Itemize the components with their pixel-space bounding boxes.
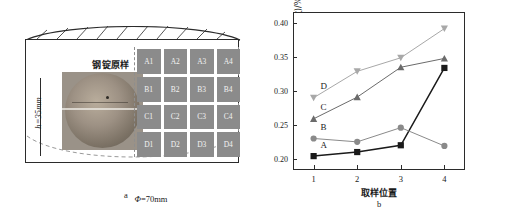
sample-block: B2: [164, 77, 188, 102]
series-label-D: D: [321, 81, 328, 91]
sample-block: D2: [164, 132, 188, 157]
sample-block: D4: [217, 132, 241, 157]
height-dimension-label: h=35mm: [33, 82, 43, 144]
sample-block: A2: [164, 49, 188, 74]
series-line-A: [314, 68, 445, 156]
sample-block: C3: [190, 105, 214, 130]
series-label-B: B: [321, 122, 327, 132]
x-axis-tick-label: 4: [434, 174, 454, 184]
sample-block: A1: [137, 49, 161, 74]
y-axis-tick-label: 0.25: [248, 120, 288, 129]
ingot-highlight-streak: [62, 108, 143, 110]
data-point-marker: [397, 55, 404, 62]
data-point-marker: [398, 125, 404, 131]
y-axis-tick-mark: [293, 23, 297, 24]
sampling-block-grid: A1 A2 A3 A4 B1 B2 B3 B4 C1 C2 C3 C4 D1 D…: [137, 49, 240, 157]
data-point-marker: [441, 65, 447, 71]
ingot-cross-section-photo: [62, 72, 143, 150]
data-point-marker: [310, 95, 317, 102]
figure-container: h=35mm 钢锭原样 A1 A2 A3 A4 B1 B2 B3 B4 C1: [0, 0, 506, 221]
sample-block: C1: [137, 105, 161, 130]
series-D: [310, 26, 448, 102]
x-axis-tick-mark: [401, 165, 402, 170]
data-point-marker: [310, 115, 317, 122]
data-point-marker: [311, 153, 317, 159]
y-axis-tick-mark: [293, 57, 297, 58]
series-line-C: [314, 58, 445, 118]
series-A: [311, 65, 448, 159]
data-point-marker: [441, 55, 448, 62]
ingot-cross-section-disc: [65, 73, 140, 148]
y-axis-tick-label: 0.20: [248, 154, 288, 163]
data-point-marker: [398, 142, 404, 148]
data-point-marker: [354, 68, 361, 75]
ingot-inclusion-dot: [106, 96, 109, 99]
x-axis-tick-label: 1: [304, 174, 324, 184]
data-point-marker: [441, 26, 448, 33]
y-axis-tick-label: 0.35: [248, 53, 288, 62]
x-axis-tick-mark: [444, 165, 445, 170]
y-axis-tick-mark: [293, 125, 297, 126]
sample-block: D1: [137, 132, 161, 157]
sample-block: B1: [137, 77, 161, 102]
y-axis-tick-mark: [293, 159, 297, 160]
x-axis-title: 取样位置: [313, 186, 445, 199]
data-point-marker: [354, 94, 361, 101]
height-dimension: h=35mm: [31, 78, 45, 156]
panel-b-caption: b: [353, 199, 405, 209]
panel-b-line-chart: 氮含量(质量分数)/% 0.200.250.300.350.401234ABCD…: [253, 0, 506, 221]
x-axis-tick-label: 3: [391, 174, 411, 184]
x-axis-tick-label: 2: [347, 174, 367, 184]
x-axis-tick-mark: [357, 165, 358, 170]
y-axis-tick-mark: [293, 91, 297, 92]
sample-block: D3: [190, 132, 214, 157]
chart-svg: [294, 13, 464, 169]
sample-block: B4: [217, 77, 241, 102]
sample-block: C2: [164, 105, 188, 130]
series-line-B: [314, 128, 445, 146]
ingot-crack-line: [72, 102, 128, 103]
plot-area: [293, 12, 465, 170]
ingot-illustration: h=35mm 钢锭原样 A1 A2 A3 A4 B1 B2 B3 B4 C1: [25, 26, 241, 164]
sample-block: C4: [217, 105, 241, 130]
series-line-D: [314, 29, 445, 98]
series-B: [311, 125, 448, 150]
y-axis-tick-label: 0.40: [248, 19, 288, 28]
y-axis-tick-label: 0.30: [248, 87, 288, 96]
data-point-marker: [354, 149, 360, 155]
sample-block: A3: [190, 49, 214, 74]
panel-a-ingot-diagram: h=35mm 钢锭原样 A1 A2 A3 A4 B1 B2 B3 B4 C1: [0, 0, 253, 221]
sample-block: B3: [190, 77, 214, 102]
data-point-marker: [441, 143, 447, 149]
series-label-C: C: [321, 102, 327, 112]
data-point-marker: [354, 139, 360, 145]
sample-block: A4: [217, 49, 241, 74]
series-label-A: A: [321, 140, 328, 150]
panel-a-caption: a: [96, 190, 156, 200]
x-axis-tick-mark: [314, 165, 315, 170]
data-point-marker: [311, 135, 317, 141]
